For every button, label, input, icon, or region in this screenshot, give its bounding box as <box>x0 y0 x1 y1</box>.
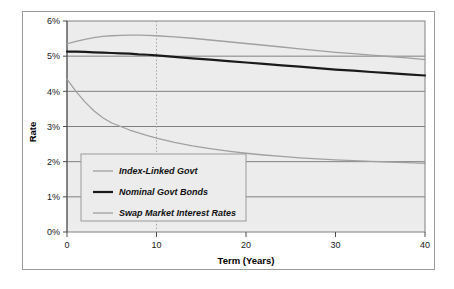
y-tick-label-2: 2% <box>47 157 60 167</box>
x-tick-label-40: 40 <box>420 240 430 250</box>
x-tick-label-30: 30 <box>330 240 340 250</box>
x-tick-label-10: 10 <box>151 240 161 250</box>
y-tick-label-1: 1% <box>47 192 60 202</box>
x-axis: 010203040 <box>64 232 430 250</box>
legend-label-0: Index-Linked Govt <box>119 166 199 176</box>
rate-term-line-chart: 0%1%2%3%4%5%6% 010203040 Rate Term (Year… <box>23 12 434 269</box>
y-axis: 0%1%2%3%4%5%6% <box>47 16 67 237</box>
y-tick-label-4: 4% <box>47 87 60 97</box>
y-tick-label-5: 5% <box>47 51 60 61</box>
legend-label-2: Swap Market Interest Rates <box>119 208 236 218</box>
y-tick-label-6: 6% <box>47 16 60 26</box>
y-axis-title: Rate <box>27 122 38 143</box>
y-tick-label-0: 0% <box>47 227 60 237</box>
x-tick-label-20: 20 <box>241 240 251 250</box>
chart-figure: 0%1%2%3%4%5%6% 010203040 Rate Term (Year… <box>22 11 435 270</box>
chart-legend: Index-Linked GovtNominal Govt BondsSwap … <box>81 154 246 221</box>
x-tick-label-0: 0 <box>64 240 69 250</box>
y-tick-label-3: 3% <box>47 122 60 132</box>
legend-label-1: Nominal Govt Bonds <box>119 187 208 197</box>
x-axis-title: Term (Years) <box>218 255 275 266</box>
